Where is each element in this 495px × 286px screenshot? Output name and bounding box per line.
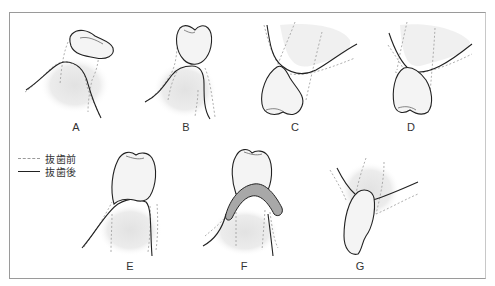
- panel-label-g: G: [356, 261, 365, 272]
- panel-label-d: D: [407, 122, 415, 133]
- diagram-canvas: [0, 0, 495, 286]
- panel-b-drawing: [145, 26, 217, 119]
- panel-e-drawing: [82, 152, 162, 256]
- legend-item-after: 抜歯後: [18, 165, 77, 178]
- solid-line-icon: [18, 171, 40, 172]
- legend: 抜歯前 抜歯後: [18, 152, 77, 178]
- panel-label-e: E: [126, 261, 133, 272]
- panel-label-f: F: [241, 261, 248, 272]
- panel-a-drawing: [25, 30, 113, 118]
- panel-c-drawing: [262, 22, 357, 114]
- panel-label-a: A: [72, 122, 79, 133]
- panel-g-drawing: [330, 158, 418, 254]
- panel-label-b: B: [182, 122, 189, 133]
- panel-f-drawing: [203, 150, 282, 256]
- panel-d-drawing: [388, 22, 472, 114]
- legend-label-after: 抜歯後: [45, 164, 77, 179]
- dotted-line-icon: [18, 158, 40, 159]
- panel-label-c: C: [291, 122, 299, 133]
